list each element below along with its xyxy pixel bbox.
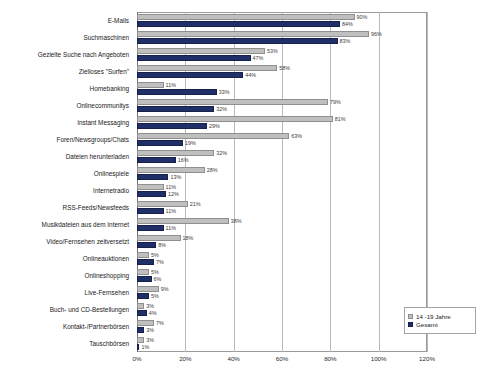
- bar-value-label-total: 83%: [340, 38, 351, 44]
- bar-value-label-teen: 96%: [371, 31, 382, 37]
- legend-item-teen: 14 -19 Jahre: [408, 313, 472, 320]
- category-label: Live-Fernsehen: [85, 289, 129, 297]
- bar-value-label-total: 19%: [185, 140, 196, 146]
- bar-value-label-teen: 53%: [267, 48, 278, 54]
- category-label: Dateien herunterladen: [66, 153, 129, 161]
- bar-value-label-teen: 81%: [335, 116, 346, 122]
- bar-value-label-teen: 32%: [216, 150, 227, 156]
- bar-total: [137, 55, 251, 61]
- bar-chart: E-MailsSuchmaschinenGezielte Suche nach …: [0, 0, 485, 383]
- bar-teen: [137, 65, 277, 71]
- bar-total: [137, 208, 164, 214]
- bar-group: 11%33%: [137, 82, 427, 95]
- bar-value-label-teen: 5%: [151, 269, 159, 275]
- bar-value-label-total: 12%: [168, 191, 179, 197]
- bar-value-label-total: 13%: [170, 174, 181, 180]
- bar-value-label-total: 44%: [245, 72, 256, 78]
- bar-value-label-total: 6%: [154, 276, 162, 282]
- bar-value-label-teen: 3%: [146, 337, 154, 343]
- chart-legend: 14 -19 Jahre Gesamt: [404, 307, 476, 334]
- bar-teen: [137, 184, 164, 190]
- bar-value-label-total: 32%: [216, 106, 227, 112]
- bar-value-label-total: 11%: [166, 208, 176, 214]
- bar-teen: [137, 269, 149, 275]
- bar-group: 58%44%: [137, 65, 427, 78]
- bar-group: 32%16%: [137, 150, 427, 163]
- bar-group: 3%4%: [137, 303, 427, 316]
- bar-group: 28%13%: [137, 167, 427, 180]
- category-label: Buch- und CD-Bestellungen: [50, 306, 129, 314]
- category-label: Gezielte Suche nach Angeboten: [38, 51, 129, 59]
- category-label: Homebanking: [90, 85, 129, 93]
- bar-total: [137, 191, 166, 197]
- category-label: Onlinespiele: [94, 170, 129, 178]
- bar-teen: [137, 31, 369, 37]
- bar-group: 3%1%: [137, 337, 427, 350]
- bar-teen: [137, 116, 333, 122]
- bar-value-label-total: 29%: [209, 123, 220, 129]
- category-label: Video/Fernsehen zeitversetzt: [46, 238, 129, 246]
- bar-group: 21%11%: [137, 201, 427, 214]
- bar-total: [137, 21, 340, 27]
- bar-teen: [137, 167, 205, 173]
- bar-teen: [137, 201, 188, 207]
- bar-teen: [137, 320, 154, 326]
- category-label: Instant Messaging: [77, 119, 129, 127]
- legend-swatch-total: [408, 322, 413, 327]
- category-label: RSS-Feeds/Newsfeeds: [63, 204, 129, 212]
- category-axis-labels: E-MailsSuchmaschinenGezielte Suche nach …: [0, 12, 133, 352]
- category-label: Suchmaschinen: [84, 34, 129, 42]
- bar-teen: [137, 48, 265, 54]
- bar-total: [137, 259, 154, 265]
- bar-total: [137, 106, 214, 112]
- legend-swatch-teen: [408, 314, 413, 319]
- bar-group: 96%83%: [137, 31, 427, 44]
- legend-label-teen: 14 -19 Jahre: [416, 313, 451, 320]
- bar-value-label-teen: 58%: [279, 65, 290, 71]
- bar-total: [137, 140, 183, 146]
- x-axis-tick-label: 60%: [276, 355, 288, 362]
- bar-total: [137, 72, 243, 78]
- bar-value-label-total: 3%: [146, 327, 154, 333]
- bar-group: 90%84%: [137, 14, 427, 27]
- bar-total: [137, 242, 156, 248]
- legend-label-total: Gesamt: [416, 321, 438, 328]
- bar-teen: [137, 218, 229, 224]
- bar-total: [137, 293, 149, 299]
- legend-item-total: Gesamt: [408, 321, 472, 328]
- bar-value-label-total: 4%: [149, 310, 157, 316]
- bar-value-label-total: 84%: [342, 21, 353, 27]
- bar-total: [137, 38, 338, 44]
- category-label: Onlineauktionen: [83, 255, 129, 263]
- bar-total: [137, 123, 207, 129]
- bar-value-label-total: 7%: [156, 259, 164, 265]
- bar-group: 18%8%: [137, 235, 427, 248]
- bar-teen: [137, 235, 181, 241]
- bar-total: [137, 157, 176, 163]
- bar-group: 7%3%: [137, 320, 427, 333]
- bar-teen: [137, 150, 214, 156]
- x-axis-tick-label: 100%: [371, 355, 387, 362]
- x-axis-tick-label: 80%: [324, 355, 336, 362]
- bar-value-label-teen: 79%: [330, 99, 341, 105]
- bar-value-label-teen: 9%: [161, 286, 169, 292]
- bar-teen: [137, 14, 355, 20]
- category-label: Kontakt-/Partnerbörsen: [63, 323, 129, 331]
- bar-teen: [137, 286, 159, 292]
- bar-series-container: 90%84%96%83%53%47%58%44%11%33%79%32%81%2…: [137, 12, 427, 352]
- bar-value-label-teen: 28%: [207, 167, 218, 173]
- bar-value-label-teen: 7%: [156, 320, 164, 326]
- bar-total: [137, 174, 168, 180]
- bar-value-label-teen: 11%: [166, 184, 176, 190]
- bar-value-label-total: 8%: [158, 242, 166, 248]
- bar-value-label-total: 11%: [166, 225, 176, 231]
- category-label: Onlinecommunitys: [76, 102, 129, 110]
- category-label: Foren/Newsgroups/Chats: [57, 136, 129, 144]
- category-label: Internetradio: [93, 187, 129, 195]
- bar-total: [137, 89, 217, 95]
- bar-value-label-teen: 11%: [166, 82, 176, 88]
- bar-value-label-teen: 90%: [357, 14, 368, 20]
- bar-value-label-total: 47%: [253, 55, 264, 61]
- bar-total: [137, 276, 152, 282]
- bar-teen: [137, 82, 164, 88]
